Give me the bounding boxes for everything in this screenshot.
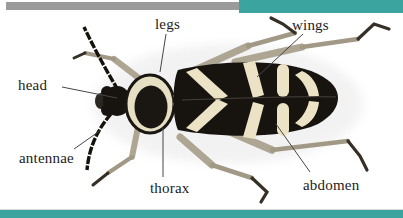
- label-wings: wings: [292, 18, 329, 33]
- label-head: head: [18, 78, 47, 93]
- label-antennae: antennae: [19, 151, 74, 166]
- label-legs: legs: [155, 17, 180, 32]
- label-thorax: thorax: [150, 181, 190, 196]
- label-abdomen: abdomen: [303, 178, 359, 193]
- leader-line-antennae: [74, 130, 101, 149]
- diagram-page: legs wings head antennae thorax abdomen: [0, 0, 403, 218]
